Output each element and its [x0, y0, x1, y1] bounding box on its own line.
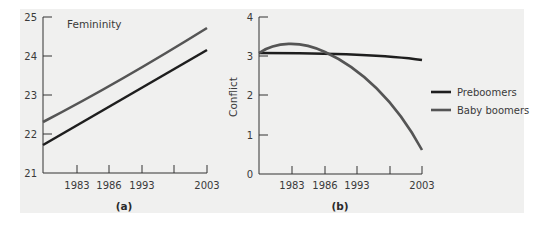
- chart-b: 4 3 2 1 0 1983 1986 1993 2003 Conflict (…: [227, 12, 435, 212]
- legend-label-preboomers: Preboomers: [457, 87, 517, 98]
- figure: 25 24 23 22 21 1983 1986 1993 2003 Femin…: [0, 0, 548, 229]
- x-tick-label: 2003: [194, 180, 219, 191]
- y-tick-label: 3: [247, 51, 253, 62]
- y-tick-label: 25: [24, 12, 37, 23]
- chart-b-panel-label: (b): [331, 200, 348, 212]
- y-tick-label: 4: [247, 12, 253, 23]
- y-tick-label: 2: [247, 90, 253, 101]
- x-tick-label: 1986: [312, 180, 337, 191]
- x-tick-label: 1993: [344, 180, 369, 191]
- x-tick-label: 1983: [64, 180, 89, 191]
- chart-a-title: Femininity: [67, 18, 122, 30]
- x-tick-label: 2003: [409, 180, 434, 191]
- y-tick-label: 22: [24, 129, 37, 140]
- y-tick-label: 1: [247, 130, 253, 141]
- chart-a-panel-label: (a): [116, 200, 133, 212]
- chart-b-y-axis-title: Conflict: [227, 77, 239, 117]
- x-tick-label: 1993: [129, 180, 154, 191]
- series-baby-boomers-a: [43, 28, 207, 122]
- y-tick-label: 21: [24, 168, 37, 179]
- y-tick-label: 0: [247, 169, 253, 180]
- y-tick-label: 23: [24, 90, 37, 101]
- series-preboomers-a: [43, 50, 207, 145]
- x-tick-label: 1986: [96, 180, 121, 191]
- x-tick-label: 1983: [279, 180, 304, 191]
- chart-a: 25 24 23 22 21 1983 1986 1993 2003 Femin…: [24, 12, 219, 212]
- y-tick-label: 24: [24, 51, 37, 62]
- legend-label-baby-boomers: Baby boomers: [457, 105, 529, 116]
- legend: Preboomers Baby boomers: [431, 87, 529, 116]
- series-baby-boomers-b: [259, 44, 422, 150]
